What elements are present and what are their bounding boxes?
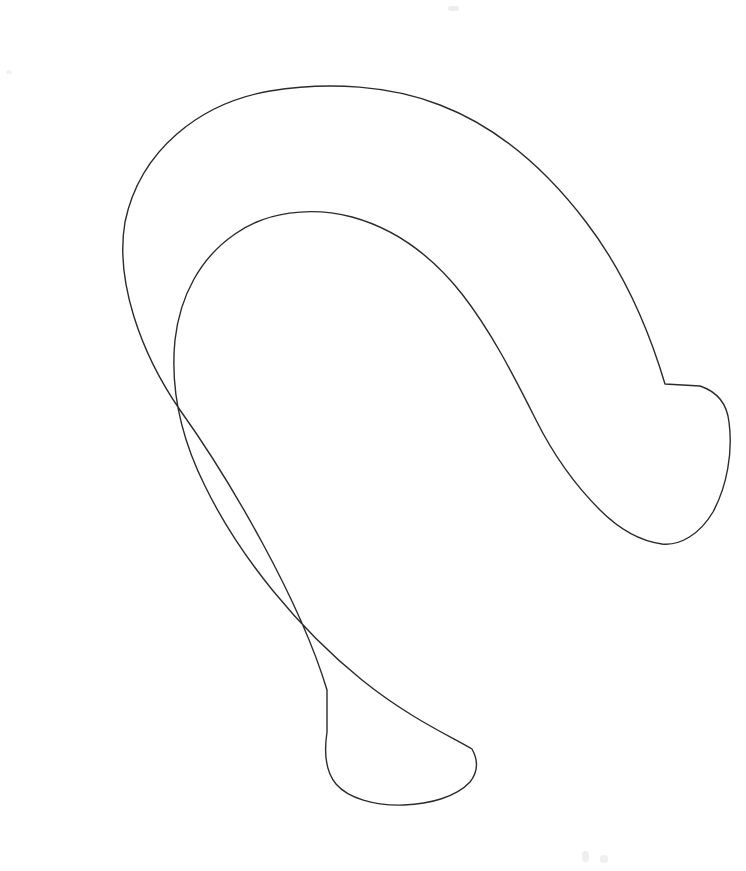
outline-drawing-svg — [0, 0, 746, 871]
drawing-canvas: Closed hook-shaped outline — [0, 0, 746, 871]
paper-background — [0, 0, 746, 871]
